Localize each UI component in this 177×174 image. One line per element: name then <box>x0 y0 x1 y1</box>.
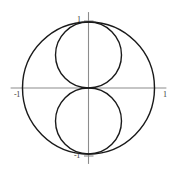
polar-plot-figure: -1 1 1 -1 <box>0 0 177 174</box>
plot-canvas <box>0 0 177 174</box>
y-axis-label-positive-one: 1 <box>77 16 81 24</box>
x-axis-label-negative-one: -1 <box>14 91 20 99</box>
x-axis-label-positive-one: 1 <box>163 91 167 99</box>
y-axis-label-negative-one: -1 <box>74 152 80 160</box>
